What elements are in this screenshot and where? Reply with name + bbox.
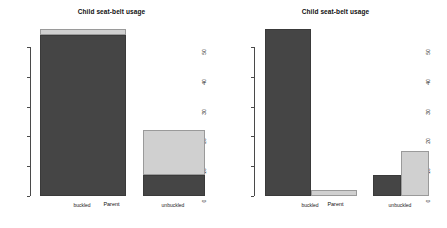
bar-grouped-unbuckled-child-buckled[interactable] bbox=[373, 175, 401, 196]
bar-segment-child-unbuckled[interactable] bbox=[311, 190, 357, 196]
bar-stacked-unbuckled[interactable] bbox=[143, 130, 205, 196]
bar-segment-child-buckled[interactable] bbox=[40, 35, 126, 196]
chart-panel-grouped: Child seat-belt usage 0 10 20 30 40 50 bbox=[224, 0, 447, 228]
bar-segment-child-unbuckled[interactable] bbox=[401, 151, 429, 196]
y-tick-20 bbox=[27, 136, 30, 137]
bar-grouped-unbuckled-child-unbuckled[interactable] bbox=[401, 151, 429, 196]
bar-segment-child-unbuckled[interactable] bbox=[143, 130, 205, 175]
y-tick-0 bbox=[27, 196, 30, 197]
bar-grouped-buckled-child-unbuckled[interactable] bbox=[311, 190, 357, 196]
y-tick-0 bbox=[251, 196, 254, 197]
y-tick-50 bbox=[27, 47, 30, 48]
bar-group-grouped bbox=[255, 20, 432, 196]
bar-segment-child-buckled[interactable] bbox=[143, 175, 205, 196]
chart-title-grouped: Child seat-belt usage bbox=[224, 8, 447, 15]
bar-segment-child-buckled[interactable] bbox=[265, 29, 311, 196]
y-tick-50 bbox=[251, 47, 254, 48]
y-tick-10 bbox=[251, 166, 254, 167]
y-tick-40 bbox=[251, 77, 254, 78]
x-axis-label-grouped: Parent bbox=[224, 201, 447, 207]
chart-title-stacked: Child seat-belt usage bbox=[0, 8, 223, 15]
x-axis-label-stacked: Parent bbox=[0, 201, 223, 207]
y-tick-10 bbox=[27, 166, 30, 167]
y-tick-30 bbox=[27, 107, 30, 108]
chart-panel-stacked: Child seat-belt usage 0 10 20 30 40 50 bbox=[0, 0, 223, 228]
bar-grouped-buckled-child-buckled[interactable] bbox=[265, 29, 311, 196]
y-tick-30 bbox=[251, 107, 254, 108]
bar-stacked-buckled[interactable] bbox=[40, 29, 126, 196]
y-tick-40 bbox=[27, 77, 30, 78]
plot-area-stacked: 0 10 20 30 40 50 bbox=[30, 20, 208, 196]
bar-segment-child-buckled[interactable] bbox=[373, 175, 401, 196]
plot-area-grouped: 0 10 20 30 40 50 bbox=[254, 20, 432, 196]
figure-canvas: Child seat-belt usage 0 10 20 30 40 50 bbox=[0, 0, 447, 228]
bar-group-stacked bbox=[31, 20, 208, 196]
y-tick-20 bbox=[251, 136, 254, 137]
